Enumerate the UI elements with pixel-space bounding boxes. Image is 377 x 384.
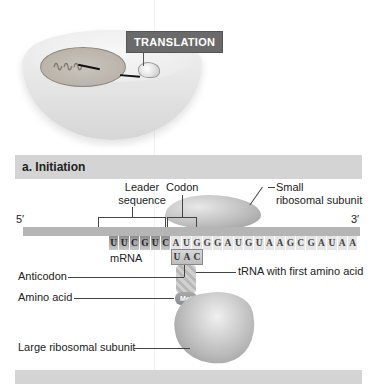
mrna-base: A (338, 236, 348, 250)
section-header-next (15, 370, 362, 384)
mrna-base: C (161, 236, 171, 250)
mrna-base: U (119, 236, 129, 250)
anticodon-base: U (174, 250, 181, 264)
mrna-base: C (130, 236, 140, 250)
leader-sequence-bracket (98, 217, 166, 227)
leader-line (74, 298, 174, 299)
anticodon-base: A (184, 250, 191, 264)
label-line: Leader (118, 181, 166, 194)
mrna-base: A (265, 236, 275, 250)
mrna-base: G (286, 236, 296, 250)
trna-label: tRNA with first amino acid (238, 265, 363, 278)
leader-line (68, 277, 184, 278)
leader-sequence-label: Leader sequence (118, 181, 166, 207)
three-prime-label: 3′ (351, 213, 359, 225)
anticodon: U A C (171, 249, 203, 265)
label-line: sequence (118, 194, 166, 207)
mrna-label: mRNA (110, 252, 142, 265)
chromatin-icon: ∿∿∿ (52, 58, 82, 74)
mrna-base: A (171, 236, 181, 250)
amino-acid-label: Amino acid (18, 291, 72, 304)
leader-line (132, 207, 133, 217)
mrna-strand (23, 227, 360, 236)
mrna-bases: U U C G U C A U G G G A U G U A A G C G … (109, 236, 358, 250)
mrna-base: G (192, 236, 202, 250)
leader-line (184, 265, 185, 277)
section-title: a. Initiation (22, 160, 85, 174)
mrna-base: A (275, 236, 285, 250)
mrna-base: G (244, 236, 254, 250)
mrna-base: G (306, 236, 316, 250)
mrna-base: U (151, 236, 161, 250)
mrna-base: U (234, 236, 244, 250)
mrna-base: G (140, 236, 150, 250)
mrna-base: C (296, 236, 306, 250)
mrna-base: A (317, 236, 327, 250)
leader-line (182, 195, 183, 217)
mrna-base: U (254, 236, 264, 250)
codon-bracket (167, 217, 197, 227)
leader-line (134, 348, 190, 349)
anticodon-base: C (194, 250, 201, 264)
five-prime-label: 5′ (16, 213, 24, 225)
anticodon-label: Anticodon (18, 270, 67, 283)
mrna-base: U (182, 236, 192, 250)
section-header-initiation: a. Initiation (15, 155, 362, 179)
large-subunit-label: Large ribosomal subunit (18, 341, 135, 354)
small-subunit-label: Small ribosomal subunit (276, 181, 362, 207)
leader-line (249, 187, 262, 206)
mrna-base: U (109, 236, 119, 250)
leader-line (268, 187, 275, 188)
mrna-base: G (213, 236, 223, 250)
mrna-base: A (223, 236, 233, 250)
ribosome-icon (138, 62, 160, 78)
mrna-base: A (348, 236, 358, 250)
translation-label: TRANSLATION (126, 31, 223, 53)
mrna-base: U (327, 236, 337, 250)
codon-label: Codon (166, 181, 198, 194)
label-line: ribosomal subunit (276, 194, 362, 207)
label-line: Small (276, 181, 362, 194)
mrna-base: G (203, 236, 213, 250)
leader-line (196, 272, 236, 273)
trna-molecule (176, 265, 196, 293)
